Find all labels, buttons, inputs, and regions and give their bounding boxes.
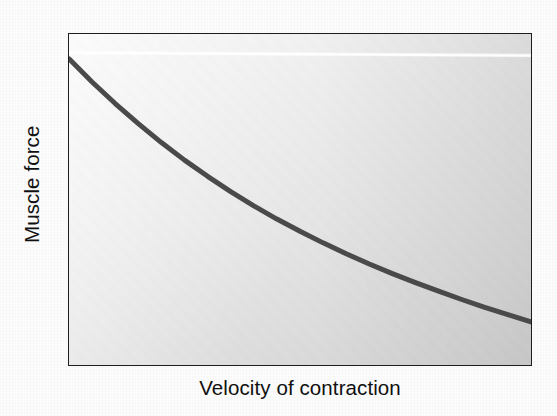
y-axis-label: Muscle force <box>23 125 44 242</box>
force-velocity-curve-svg <box>69 34 531 365</box>
force-velocity-figure: Muscle force Velocity of contraction <box>0 0 557 416</box>
plot-area <box>68 33 532 366</box>
force-velocity-curve <box>69 59 531 322</box>
x-axis-label: Velocity of contraction <box>68 378 532 399</box>
y-axis-label-container: Muscle force <box>0 0 66 400</box>
